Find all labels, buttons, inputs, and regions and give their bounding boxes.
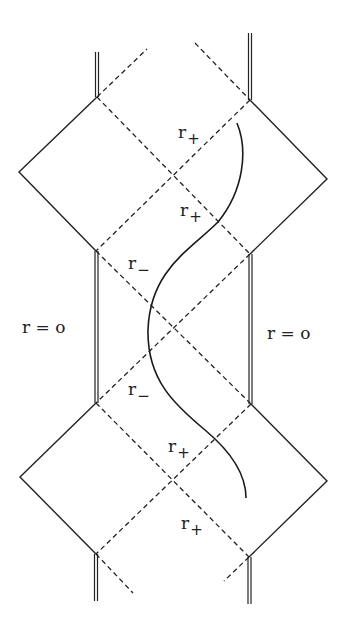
right-lower-exterior-boundary	[249, 404, 327, 557]
left-lower-exterior-boundary	[20, 403, 96, 554]
label-r-plus-4: r+	[181, 513, 203, 539]
penrose-diagram: r+ r+ r− r− r+ r+ r = o r = o	[0, 0, 346, 631]
singularity-right-bottom	[248, 557, 251, 604]
label-r-plus-2: r+	[180, 200, 202, 226]
singularity-left-top	[96, 52, 99, 97]
label-r-minus-1: r−	[128, 253, 150, 279]
left-upper-exterior-boundary	[19, 97, 97, 251]
label-r-plus-1: r+	[178, 122, 200, 148]
singularity-right-middle	[249, 254, 252, 404]
timelike-worldline	[148, 123, 246, 498]
label-r-plus-3: r+	[168, 436, 190, 462]
right-upper-exterior-boundary	[250, 100, 327, 254]
label-r-minus-2: r−	[128, 379, 150, 405]
singularity-left-middle	[95, 251, 98, 403]
singularity-left-bottom	[95, 554, 98, 601]
label-singularity-right: r = o	[267, 323, 310, 343]
singularity-right-top	[249, 33, 252, 100]
horizons	[96, 43, 251, 593]
label-singularity-left: r = o	[22, 317, 65, 337]
